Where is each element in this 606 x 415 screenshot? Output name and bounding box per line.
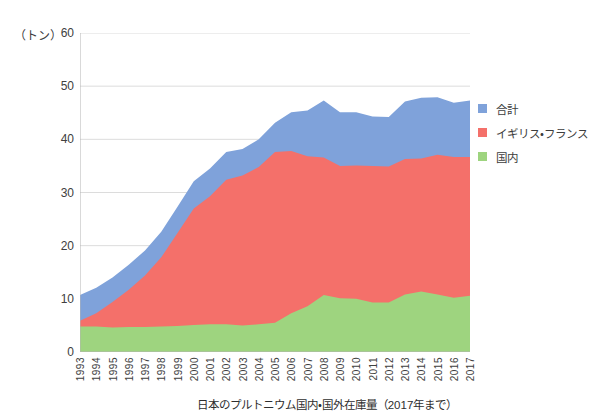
area-chart-svg bbox=[80, 33, 470, 352]
x-axis-tick-label: 2000 bbox=[189, 357, 200, 381]
legend-item-label: イギリス・フランス bbox=[496, 125, 588, 141]
y-axis-tick-label: 50 bbox=[40, 79, 74, 93]
y-axis-tick-label: 30 bbox=[40, 186, 74, 200]
x-axis-tick-label: 2007 bbox=[303, 357, 314, 381]
plot-area bbox=[80, 33, 470, 352]
x-axis-tick-label: 1993 bbox=[75, 357, 86, 381]
x-axis-tick-label: 1998 bbox=[156, 357, 167, 381]
x-axis-tick-label: 2003 bbox=[238, 357, 249, 381]
x-axis-tick-label: 2013 bbox=[400, 357, 411, 381]
figure-caption: 日本のプルトニウム国内・国外在庫量（2017年まで） bbox=[0, 396, 606, 412]
x-axis-tick-label: 2010 bbox=[351, 357, 362, 381]
x-axis-tick-label: 2012 bbox=[384, 357, 395, 381]
legend-item-label: 合計 bbox=[496, 101, 518, 117]
x-axis-tick-label: 2015 bbox=[433, 357, 444, 381]
legend-swatch-icon bbox=[478, 152, 487, 161]
legend-item-label: 国内 bbox=[496, 149, 518, 165]
x-axis-tick-label: 2006 bbox=[286, 357, 297, 381]
chart-legend: 合計イギリス・フランス国内 bbox=[478, 98, 602, 170]
x-axis-tick-label: 2008 bbox=[319, 357, 330, 381]
y-axis-tick-label: 60 bbox=[40, 26, 74, 40]
legend-swatch-icon bbox=[478, 104, 487, 113]
y-axis-tick-label: 20 bbox=[40, 239, 74, 253]
y-axis-tick-label: 40 bbox=[40, 132, 74, 146]
x-axis-tick-label: 2004 bbox=[254, 357, 265, 381]
y-axis-tick-label: 10 bbox=[40, 292, 74, 306]
x-axis-tick-label: 2005 bbox=[270, 357, 281, 381]
x-axis-tick-label: 2002 bbox=[221, 357, 232, 381]
figure-caption-text: 日本のプルトニウム国内・国外在庫量（2017年まで） bbox=[149, 396, 458, 412]
x-axis-tick-label: 2016 bbox=[449, 357, 460, 381]
y-axis-tick-label: 0 bbox=[40, 345, 74, 359]
plutonium-stock-area-chart: （トン） 0102030405060 199319941995199619971… bbox=[0, 0, 606, 415]
x-axis-tick-labels: 1993199419951996199719981999200020012002… bbox=[80, 355, 470, 395]
x-axis-tick-label: 1997 bbox=[140, 357, 151, 381]
y-axis-tick-labels: 0102030405060 bbox=[30, 0, 74, 415]
x-axis-tick-label: 1995 bbox=[108, 357, 119, 381]
legend-item[interactable]: イギリス・フランス bbox=[478, 122, 602, 143]
x-axis-tick-label: 2009 bbox=[335, 357, 346, 381]
legend-swatch-icon bbox=[478, 128, 487, 137]
legend-item[interactable]: 国内 bbox=[478, 146, 602, 167]
x-axis-tick-label: 1996 bbox=[124, 357, 135, 381]
x-axis-tick-label: 2011 bbox=[368, 357, 379, 381]
x-axis-tick-label: 2014 bbox=[416, 357, 427, 381]
x-axis-tick-label: 1999 bbox=[173, 357, 184, 381]
x-axis-tick-label: 2001 bbox=[205, 357, 216, 381]
x-axis-tick-label: 1994 bbox=[91, 357, 102, 381]
legend-item[interactable]: 合計 bbox=[478, 98, 602, 119]
x-axis-tick-label: 2017 bbox=[465, 357, 476, 381]
